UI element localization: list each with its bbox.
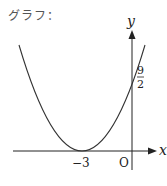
origin-label: O: [119, 156, 129, 170]
parabola-graph: y x O −3 9 2: [0, 0, 167, 186]
x-axis-label: x: [159, 142, 167, 158]
y-axis-label: y: [126, 13, 136, 29]
y-axis-arrow-icon: [129, 30, 136, 39]
vertex-x-label: −3: [72, 156, 90, 170]
parabola-curve: [19, 45, 145, 151]
intercept-denominator: 2: [137, 78, 144, 91]
x-axis-arrow-icon: [148, 148, 157, 155]
intercept-numerator: 9: [137, 64, 144, 77]
